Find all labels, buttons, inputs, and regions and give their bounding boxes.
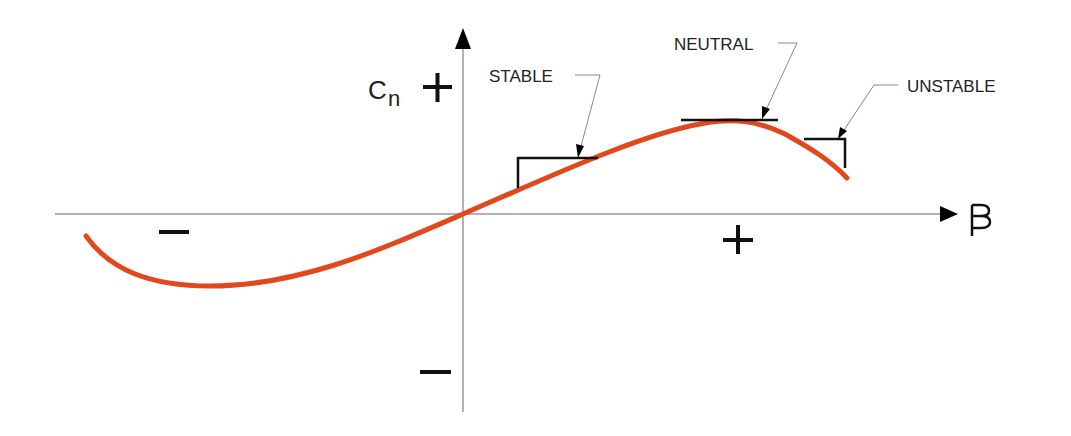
y-axis-label-subscript: n [388, 86, 400, 111]
unstable-leader [844, 85, 898, 130]
stability-diagram: C n β STABLE NEUTRAL UNSTABLE [0, 0, 1071, 436]
y-axis-arrow-icon [455, 28, 471, 49]
x-axis-positive-sign [723, 225, 753, 254]
y-axis-label: C [368, 75, 387, 105]
cn-curve [86, 121, 847, 286]
x-axis-label-beta [972, 205, 990, 236]
stable-leader [575, 75, 600, 150]
y-axis [455, 28, 471, 412]
unstable-arrow-icon [838, 127, 847, 139]
unstable-label: UNSTABLE [907, 77, 996, 96]
neutral-leader [766, 43, 797, 110]
unstable-bracket [804, 139, 845, 168]
x-axis-arrow-icon [940, 206, 958, 222]
stable-arrow-icon [576, 144, 584, 158]
stable-annotation: STABLE [489, 67, 600, 188]
neutral-arrow-icon [762, 106, 770, 119]
neutral-label: NEUTRAL [674, 35, 753, 54]
stable-label: STABLE [489, 67, 553, 86]
y-axis-positive-sign [423, 73, 452, 102]
neutral-annotation: NEUTRAL [674, 35, 797, 120]
unstable-annotation: UNSTABLE [804, 77, 996, 168]
x-axis [55, 206, 958, 222]
